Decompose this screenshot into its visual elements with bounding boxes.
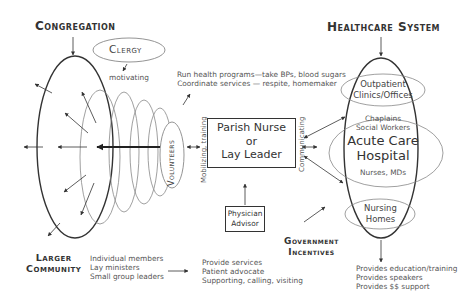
community-members-list: Individual members Lay ministers Small g… bbox=[90, 254, 164, 281]
physician-advisor-box: Physician Advisor bbox=[225, 206, 265, 232]
communicating-label: Communicating bbox=[298, 117, 306, 172]
acute-staff-top: Chaplains Social Workers bbox=[343, 114, 423, 132]
parish-nurse-box: Parish Nurse or Lay Leader bbox=[207, 118, 296, 168]
heading-healthcare-system: Healthcare System bbox=[327, 20, 440, 34]
heading-larger-community: Larger Community bbox=[26, 252, 81, 274]
healthcare-provides-list: Provides education/training Provides spe… bbox=[356, 264, 457, 291]
volunteers-label: Volunteers bbox=[167, 140, 176, 186]
nursing-homes-label: Nursing Homes bbox=[343, 203, 418, 225]
outpatient-label: Outpatient Clinics/Offices bbox=[343, 79, 423, 101]
acute-care-label: Acute Care Hospital bbox=[333, 133, 433, 163]
volunteer-tasks: Run health programs—take BPs, blood suga… bbox=[177, 70, 337, 88]
heading-congregation: Congregation bbox=[35, 19, 116, 33]
clergy-label: Clergy bbox=[109, 43, 142, 55]
acute-staff-bottom: Nurses, MDs bbox=[343, 168, 423, 177]
community-services-list: Provide services Patient advocate Suppor… bbox=[202, 258, 303, 285]
heading-government-incentives: Government Incentives bbox=[284, 236, 339, 258]
clergy-action: motivating bbox=[109, 73, 149, 82]
